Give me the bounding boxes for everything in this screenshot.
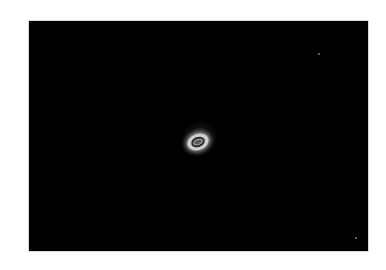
speck (318, 53, 320, 55)
image-frame (29, 21, 368, 251)
speck (355, 237, 357, 239)
